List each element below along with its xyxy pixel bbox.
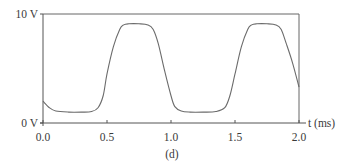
voltage-curve: [43, 24, 299, 113]
x-tick-label-0: 0.0: [28, 131, 58, 143]
x-tick-label-1.0: 1.0: [156, 131, 186, 143]
x-tick-label-2.0: 2.0: [284, 131, 314, 143]
chart: 10 V 0 V 0.0 0.5 1.0 1.5 2.0 t (ms) (d): [0, 0, 352, 165]
y-tick-label-top: 10 V: [2, 8, 38, 20]
y-tick-label-bottom: 0 V: [2, 117, 38, 129]
x-tick-label-1.5: 1.5: [220, 131, 250, 143]
x-axis-title: t (ms): [308, 117, 335, 129]
figure-caption: (d): [157, 148, 187, 160]
x-tick-label-0.5: 0.5: [92, 131, 122, 143]
